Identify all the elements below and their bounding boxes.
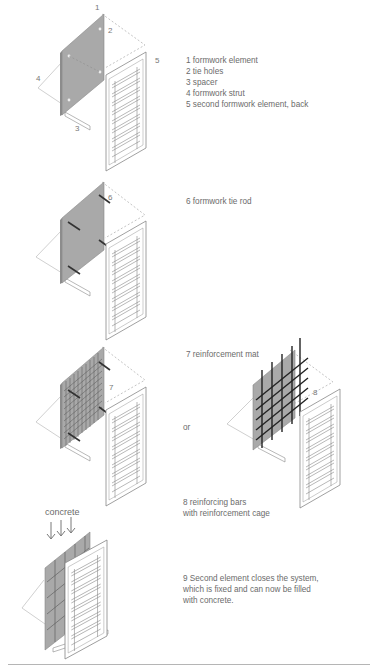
legend-item: 4 formwork strut [186,89,245,100]
bottom-divider [8,664,370,665]
legend-item: 2 tie holes [186,67,223,78]
legend-item: 1 formwork element [186,56,258,67]
pour-arrow-icon [47,517,75,539]
legend-item: 5 second formwork element, back [186,100,308,111]
legend-item: 3 spacer [186,78,217,89]
figure-2-tie-rods [0,160,185,320]
callout-8: 8 [313,388,317,397]
concrete-label: concrete [45,507,80,518]
legend-item: with concrete. [183,596,234,607]
callout-5: 5 [155,56,159,65]
callout-2: 2 [108,26,112,35]
or-label: or [183,423,190,434]
legend-item: 8 reinforcing bars [183,498,246,509]
figure-1-formwork-setup [0,0,185,165]
callout-6: 6 [108,193,112,202]
legend-item: 9 Second element closes the system, [183,574,319,585]
legend-item: which is fixed and can now be filled [183,585,311,596]
callout-4: 4 [36,74,40,83]
callout-7: 7 [109,383,113,392]
callout-3: 3 [75,124,79,133]
figure-4-closed-system [0,520,185,660]
legend-item: 6 formwork tie rod [186,197,252,208]
figure-3-reinforcement-mat [0,315,185,485]
callout-1: 1 [95,3,99,12]
legend-item: with reinforcement cage [183,509,270,520]
figure-3b-reinforcement-cage [230,340,370,500]
